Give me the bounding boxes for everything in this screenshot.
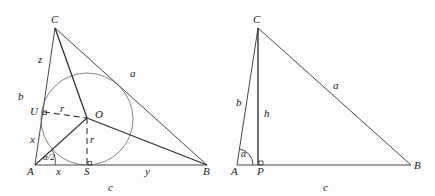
label-segment-x-vertical: x [30,134,35,145]
label-vertex-b-left: B [203,166,210,177]
label-side-c-left: c [108,182,113,193]
label-incenter-o: O [95,109,103,120]
label-angle-alpha: α [241,149,246,159]
label-point-s: S [84,166,90,177]
geometry-figures [0,0,435,196]
label-radius-r-horizontal: r [60,103,64,114]
label-radius-r-vertical: r [90,134,94,145]
triangle-abc-right [237,28,411,165]
label-vertex-c-right: C [253,14,260,25]
label-foot-p: P [257,166,264,177]
label-side-b-left: b [18,91,24,102]
label-segment-x-horizontal: x [56,166,61,177]
altitude-triangle-figure [237,28,411,165]
label-side-a-left: a [130,68,136,79]
triangle-abc-left [35,28,207,165]
label-vertex-b-right: B [414,160,421,171]
bisector-bo [87,118,207,165]
label-side-c-right: c [323,182,328,193]
label-vertex-c-left: C [51,14,58,25]
label-angle-alpha-half: α/2 [43,153,55,162]
incircle-triangle-figure [35,28,207,165]
label-segment-z: z [38,54,42,65]
label-vertex-a-left: A [27,166,34,177]
label-side-a-right: a [333,80,339,91]
label-altitude-h: h [264,108,270,119]
label-segment-y: y [145,166,150,177]
label-point-u: U [30,106,38,117]
radius-ou-dashed [44,112,87,118]
label-side-b-right: b [236,97,242,108]
diagram-canvas: C z a b U r O x r α/2 A x S y B c C b h … [0,0,435,196]
label-vertex-a-right: A [231,166,238,177]
